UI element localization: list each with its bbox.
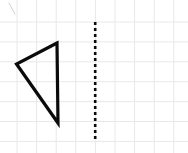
figure-canvas xyxy=(0,0,188,153)
geometry-figure xyxy=(0,0,188,153)
